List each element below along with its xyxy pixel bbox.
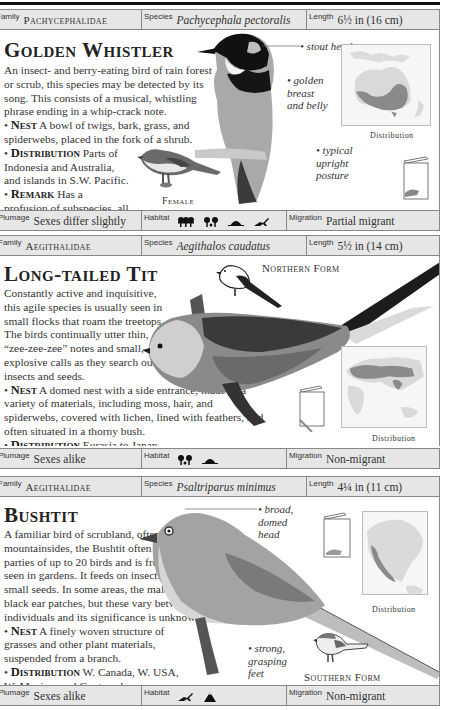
species-cell: Species Psaltriparus minimus (142, 477, 307, 496)
entry-long-tailed-tit: Long-tailed Tit Constantly active and in… (0, 256, 440, 446)
migration-value: Partial migrant (326, 215, 395, 227)
mountain-icon (204, 692, 216, 702)
family-cell: Family Aegithalidae (0, 477, 142, 496)
leader-line (185, 507, 260, 511)
golden-whistler-illustration (195, 30, 285, 210)
footer-bar-long-tailed-tit: Plumage Sexes alike Habitat Migration No… (0, 448, 440, 469)
map-caption: Distribution (372, 605, 415, 614)
plumage-value: Sexes differ slightly (34, 215, 126, 227)
footer-bar-golden-whistler: Plumage Sexes differ slightly Habitat Mi… (0, 210, 440, 231)
top-rule (0, 2, 440, 5)
plumage-value: Sexes alike (34, 453, 86, 465)
migration-cell: Migration Non-migrant (287, 449, 439, 468)
field-guide-book-icon (298, 384, 326, 432)
plumage-cell: Plumage Sexes differ slightly (0, 211, 142, 230)
length-value: 4¼ in (11 cm) (337, 481, 402, 493)
leader-line (262, 44, 302, 48)
length-cell: Length 4¼ in (11 cm) (307, 477, 439, 496)
length-cell: Length 6½ in (16 cm) (307, 10, 439, 29)
migration-value: Non-migrant (326, 453, 385, 465)
woodland-icon (178, 455, 192, 465)
annotation-domed-head: • broad, domed head (258, 503, 310, 541)
habitat-cell: Habitat (142, 211, 287, 230)
header-bar-bushtit: Family Aegithalidae Species Psaltriparus… (0, 476, 440, 497)
header-bar-long-tailed-tit: Family Aegithalidae Species Aegithalos c… (0, 235, 440, 256)
length-value: 6½ in (16 cm) (337, 14, 402, 26)
family-value: Aegithalidae (26, 240, 91, 252)
habitat-cell: Habitat (142, 449, 287, 468)
species-cell: Species Aegithalos caudatus (142, 236, 307, 255)
plumage-cell: Plumage Sexes alike (0, 686, 142, 705)
length-value: 5½ in (14 cm) (337, 240, 402, 252)
woodland-icon (204, 217, 218, 227)
southern-form-bird-illustration (312, 630, 370, 664)
footer-bar-bushtit: Plumage Sexes alike Habitat Migration No… (0, 685, 440, 706)
annotation-golden-breast: • golden breast and belly (287, 74, 332, 112)
length-cell: Length 5½ in (14 cm) (307, 236, 439, 255)
grassland-icon (178, 692, 194, 702)
species-value: Pachycephala pectoralis (176, 14, 290, 26)
plumage-cell: Plumage Sexes alike (0, 449, 142, 468)
annotation-upright-posture: • typical upright posture (316, 144, 361, 182)
annotation-grasping-feet: • strong, grasping feet (248, 642, 296, 680)
habitat-cell: Habitat (142, 686, 287, 705)
southern-form-caption: Southern Form (304, 671, 381, 683)
species-cell: Species Pachycephala pectoralis (142, 10, 307, 29)
migration-cell: Migration Partial migrant (287, 211, 439, 230)
family-value: Aegithalidae (26, 481, 91, 493)
scrub-icon (228, 218, 244, 226)
distribution-map-eurasia (341, 346, 427, 428)
family-cell: Family Aegithalidae (0, 236, 142, 255)
migration-value: Non-migrant (326, 690, 385, 702)
female-caption: Female (162, 195, 194, 206)
entry-golden-whistler: Golden Whistler An insect- and berry-eat… (0, 30, 440, 210)
family-cell: Family Pachycephalidae (0, 10, 142, 29)
scrub-icon (202, 456, 218, 464)
species-title: Bushtit (4, 503, 78, 528)
grassland-icon (254, 217, 270, 227)
map-caption: Distribution (370, 131, 413, 140)
species-value: Aegithalos caudatus (176, 240, 270, 252)
family-value: Pachycephalidae (24, 14, 108, 26)
species-title: Golden Whistler (4, 38, 174, 63)
distribution-map-north-america (362, 511, 428, 595)
species-value: Psaltriparus minimus (176, 481, 275, 493)
rainforest-icon (178, 217, 194, 227)
plumage-value: Sexes alike (34, 690, 86, 702)
map-caption: Distribution (372, 434, 415, 443)
entry-bushtit: Bushtit A familiar bird of scrubland, of… (0, 497, 440, 685)
distribution-map-australasia (341, 44, 431, 126)
migration-cell: Migration Non-migrant (287, 686, 439, 705)
field-guide-book-icon (401, 155, 431, 201)
header-bar-golden-whistler: Family Pachycephalidae Species Pachyceph… (0, 9, 440, 30)
field-guide-book-icon (322, 511, 352, 559)
species-title: Long-tailed Tit (4, 262, 158, 287)
